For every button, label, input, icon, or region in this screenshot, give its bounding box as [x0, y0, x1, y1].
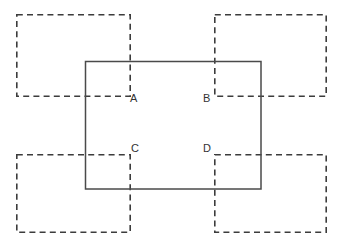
- diagram-svg: [0, 0, 342, 248]
- dashed-rect-top-left: [17, 15, 130, 96]
- figure-canvas: A B C D: [0, 0, 342, 248]
- dashed-rect-bottom-left: [17, 155, 130, 232]
- point-label-c: C: [131, 143, 139, 154]
- point-label-b: B: [203, 93, 210, 104]
- point-label-d: D: [203, 143, 211, 154]
- dashed-rect-top-right: [215, 15, 326, 96]
- dashed-rect-bottom-right: [215, 155, 326, 232]
- solid-rect-center: [86, 62, 262, 190]
- point-label-a: A: [130, 93, 137, 104]
